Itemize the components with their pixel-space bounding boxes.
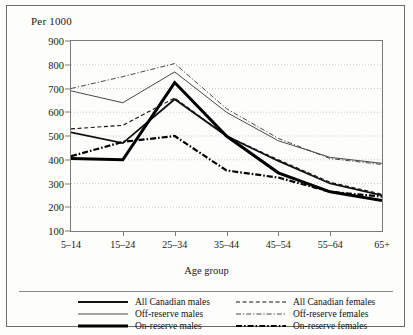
plot-box [70,40,383,232]
legend-item: All Canadian males [77,297,235,307]
legend-item: All Canadian females [235,297,393,307]
x-axis-tick-label: 15–24 [110,239,135,250]
series-line [71,72,382,163]
series-line [71,99,382,195]
legend-item-label: On-reserve males [135,321,202,331]
legend-item-label: Off-reserve females [293,309,369,319]
y-axis-tick-label: 500 [24,131,64,142]
legend-line-swatch [77,297,129,307]
legend-item: On-reserve males [77,321,235,331]
legend-line-swatch [235,321,287,331]
x-axis-tick-label: 5–14 [61,239,81,250]
y-axis-tick-label: 300 [24,178,64,189]
y-axis-tick-label: 800 [24,59,64,70]
figure-frame: Per 1000 100200300400500600700800900 5–1… [6,5,405,327]
y-axis-tick-label: 600 [24,107,64,118]
legend-line-swatch [235,297,287,307]
y-axis-tick-label: 700 [24,83,64,94]
series-line [71,64,382,165]
chart-area: Per 1000 100200300400500600700800900 5–1… [7,6,406,288]
y-axis-tick-label: 400 [24,154,64,165]
legend-item: Off-reserve males [77,309,235,319]
legend-line-swatch [77,309,129,319]
legend-item-label: All Canadian females [293,297,375,307]
legend-item: On-reserve females [235,321,393,331]
series-line [71,136,382,197]
legend-item-label: All Canadian males [135,297,210,307]
x-axis-title: Age group [7,265,406,276]
series-lines [71,41,382,231]
x-axis-tick-label: 25–34 [162,239,187,250]
legend-line-swatch [235,309,287,319]
x-axis-tick-label: 35–44 [214,239,239,250]
y-axis-tick-label: 100 [24,226,64,237]
x-axis-tick-label: 55–64 [318,239,343,250]
x-axis-tick-label: 65+ [374,239,390,250]
y-axis-title: Per 1000 [31,15,72,27]
chart-legend: All Canadian malesAll Canadian femalesOf… [19,291,393,335]
x-axis-tick-label: 45–54 [266,239,291,250]
legend-item: Off-reserve females [235,309,393,319]
legend-item-label: Off-reserve males [135,309,203,319]
legend-item-label: On-reserve females [293,321,367,331]
y-axis-tick-label: 200 [24,202,64,213]
legend-line-swatch [77,321,129,331]
y-axis-tick-label: 900 [24,36,64,47]
